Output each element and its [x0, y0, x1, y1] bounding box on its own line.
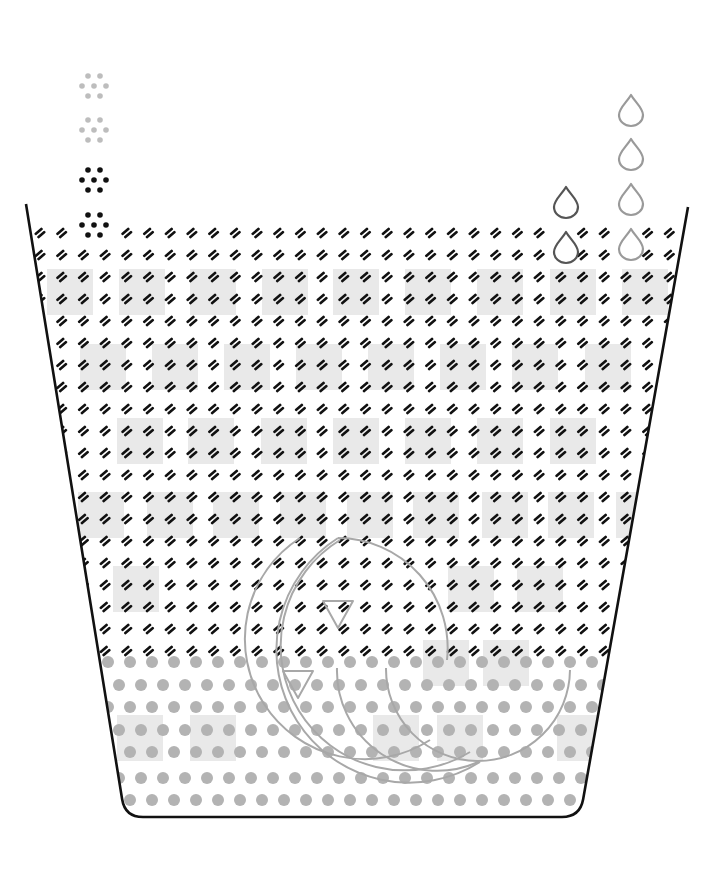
double-dash-icon	[208, 337, 220, 349]
bottom-dot	[135, 724, 147, 736]
double-dash-icon	[490, 381, 502, 393]
double-dash-icon	[598, 623, 610, 635]
double-dash-icon	[511, 315, 523, 327]
double-dash-icon	[533, 425, 545, 437]
double-dash-icon	[468, 469, 480, 481]
double-dash-icon	[685, 535, 697, 547]
bottom-dot	[685, 679, 697, 691]
double-dash-icon	[381, 645, 393, 657]
bottom-dot	[564, 701, 576, 713]
double-dash-icon	[56, 513, 68, 525]
double-dash-icon	[164, 579, 176, 591]
double-dash-icon	[186, 227, 198, 239]
double-dash-icon	[511, 249, 523, 261]
bottom-dot	[608, 794, 620, 806]
double-dash-icon	[620, 403, 632, 415]
double-dash-icon	[576, 601, 588, 613]
double-dash-icon	[359, 645, 371, 657]
water-drop-icon	[619, 95, 643, 126]
double-dash-icon	[511, 403, 523, 415]
double-dash-icon	[164, 557, 176, 569]
double-dash-icon	[685, 513, 697, 525]
double-dash-icon	[99, 271, 111, 283]
double-dash-icon	[99, 645, 111, 657]
double-dash-icon	[99, 469, 111, 481]
bottom-dot	[586, 701, 598, 713]
bottom-dot	[168, 794, 180, 806]
double-dash-icon	[642, 337, 654, 349]
double-dash-icon	[273, 337, 285, 349]
bottom-dot	[476, 701, 488, 713]
double-dash-icon	[164, 469, 176, 481]
double-dash-icon	[273, 579, 285, 591]
double-dash-icon	[490, 359, 502, 371]
bottom-dot	[333, 724, 345, 736]
double-dash-icon	[34, 403, 46, 415]
bottom-dot	[124, 746, 136, 758]
double-dash-icon	[620, 601, 632, 613]
double-dash-icon	[403, 579, 415, 591]
double-dash-icon	[685, 557, 697, 569]
double-dash-icon	[598, 469, 610, 481]
bottom-dot	[311, 679, 323, 691]
double-dash-icon	[208, 315, 220, 327]
double-dash-icon	[164, 623, 176, 635]
double-dash-icon	[338, 403, 350, 415]
double-dash-icon	[685, 381, 697, 393]
double-dash-icon	[381, 271, 393, 283]
shaded-square	[616, 492, 662, 538]
shaded-square	[80, 344, 126, 390]
double-dash-icon	[34, 579, 46, 591]
bottom-dot	[575, 724, 587, 736]
double-dash-icon	[685, 469, 697, 481]
double-dash-icon	[642, 491, 654, 503]
water-drop-icon	[554, 187, 578, 218]
bottom-dot	[564, 794, 576, 806]
double-dash-icon	[642, 513, 654, 525]
double-dash-icon	[99, 425, 111, 437]
double-dash-icon	[251, 293, 263, 305]
double-dash-icon	[403, 469, 415, 481]
double-dash-icon	[533, 227, 545, 239]
double-dash-icon	[316, 447, 328, 459]
bottom-dot	[124, 701, 136, 713]
shaded-square	[550, 418, 596, 464]
bottom-dot	[223, 772, 235, 784]
double-dash-icon	[251, 601, 263, 613]
double-dash-icon	[208, 469, 220, 481]
double-dash-icon	[663, 623, 675, 635]
double-dash-icon	[251, 469, 263, 481]
double-dash-icon	[273, 381, 285, 393]
double-dash-icon	[468, 227, 480, 239]
double-dash-icon	[685, 579, 697, 591]
double-dash-icon	[685, 403, 697, 415]
bottom-dot	[652, 794, 664, 806]
bottom-dot	[443, 724, 455, 736]
double-dash-icon	[425, 403, 437, 415]
bottom-dot	[542, 794, 554, 806]
double-dash-icon	[77, 425, 89, 437]
double-dash-icon	[663, 403, 675, 415]
double-dash-icon	[533, 403, 545, 415]
bottom-dot	[421, 724, 433, 736]
double-dash-icon	[273, 227, 285, 239]
double-dash-icon	[685, 249, 697, 261]
bottom-dot	[256, 794, 268, 806]
double-dash-icon	[642, 535, 654, 547]
double-dash-icon	[99, 403, 111, 415]
double-dash-icon	[598, 447, 610, 459]
double-dash-icon	[34, 513, 46, 525]
bottom-dot	[300, 701, 312, 713]
double-dash-icon	[316, 469, 328, 481]
double-dash-icon	[121, 645, 133, 657]
bottom-dot	[410, 656, 422, 668]
double-dash-icon	[598, 249, 610, 261]
double-dash-icon	[294, 249, 306, 261]
double-dash-icon	[121, 249, 133, 261]
bottom-dot	[476, 746, 488, 758]
bottom-dot	[234, 701, 246, 713]
double-dash-icon	[663, 645, 675, 657]
double-dash-icon	[294, 227, 306, 239]
double-dash-icon	[403, 227, 415, 239]
water-drop-icon	[619, 139, 643, 170]
